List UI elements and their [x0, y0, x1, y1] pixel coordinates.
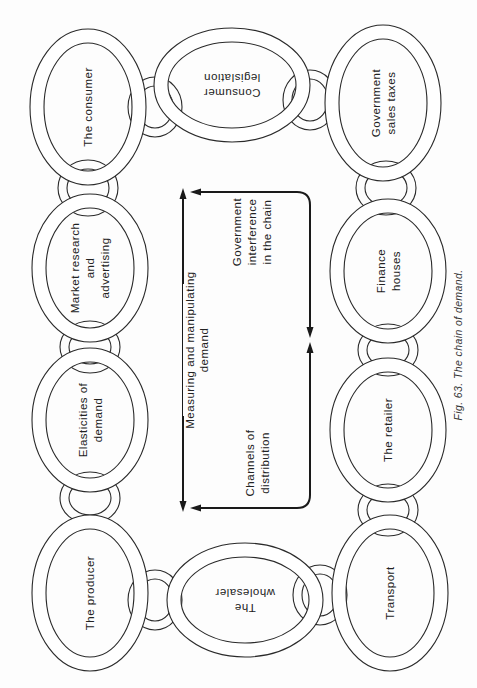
- ring-label-line: Transport: [384, 566, 396, 620]
- ring-label-line: Consumer: [203, 87, 260, 99]
- ring-label: Market researchandadvertising: [69, 223, 111, 314]
- ring-label-line: The consumer: [82, 67, 94, 147]
- ring-elasticities: Elasticities ofdemand: [32, 348, 148, 492]
- ring-label-line: The producer: [84, 556, 96, 630]
- ring-label-line: The: [234, 602, 255, 614]
- ring-label: Consumerlegislation: [203, 72, 260, 99]
- ring-label-line: Finance: [375, 249, 387, 293]
- ring-label: Governmentsales taxes: [370, 69, 397, 138]
- ring-label-line: and: [84, 258, 96, 279]
- ring-transport: Transport: [332, 515, 448, 671]
- channels-of-distribution-label: Channels of distribution: [244, 429, 271, 496]
- arrow-left-icon: [190, 505, 201, 512]
- svg-text:distribution: distribution: [259, 432, 271, 494]
- figure-caption: Fig. 63. The chain of demand.: [452, 269, 464, 420]
- svg-text:Government: Government: [231, 198, 243, 267]
- ring-label-line: The retailer: [382, 398, 394, 462]
- ring-label-line: advertising: [99, 237, 111, 298]
- ring-label-line: Elasticities of: [77, 382, 89, 457]
- svg-text:interference: interference: [246, 199, 258, 266]
- svg-text:in the chain: in the chain: [261, 200, 273, 265]
- measuring-label-line-1: Measuring and manipulating: [184, 271, 196, 428]
- ring-label: The consumer: [82, 67, 94, 147]
- ring-label: Transport: [384, 566, 396, 620]
- ring-government-sales-taxes: Governmentsales taxes: [325, 25, 441, 181]
- ring-finance-houses: Financehouses: [330, 199, 446, 343]
- ring-label-line: Government: [370, 69, 382, 138]
- ring-label-line: Market research: [69, 223, 81, 314]
- ring-label: Thewholesaler: [215, 587, 276, 614]
- arrow-down-icon: [180, 501, 187, 512]
- ring-label-line: legislation: [204, 72, 261, 84]
- ring-label-line: wholesaler: [215, 587, 276, 599]
- ring-label: Elasticities ofdemand: [77, 382, 104, 457]
- arrow-up-icon: [180, 188, 187, 199]
- chain-of-demand-diagram: The consumerMarket researchandadvertisin…: [0, 0, 477, 688]
- ring-label: Financehouses: [375, 249, 402, 293]
- ring-retailer: The retailer: [330, 358, 446, 502]
- arrow-left-icon: [190, 189, 201, 196]
- government-interference-label: Government interference in the chain: [231, 198, 273, 267]
- arrow-up-icon: [307, 342, 314, 353]
- ring-producer: The producer: [32, 515, 148, 671]
- measuring-label: Measuring and manipulating demand: [183, 271, 210, 428]
- ring-label: The producer: [84, 556, 96, 630]
- measuring-label-line-2: demand: [198, 328, 210, 373]
- ring-label: The retailer: [382, 398, 394, 462]
- ring-label-line: demand: [92, 398, 104, 443]
- ring-label-line: houses: [390, 251, 402, 291]
- svg-text:Fig. 63. The chain of demand.: Fig. 63. The chain of demand.: [452, 269, 464, 420]
- ring-consumer: The consumer: [30, 29, 146, 185]
- ring-wholesaler: Thewholesaler: [167, 543, 323, 657]
- arrow-down-icon: [307, 327, 314, 338]
- svg-text:Channels of: Channels of: [244, 429, 256, 496]
- chain-rings: The consumerMarket researchandadvertisin…: [30, 25, 448, 671]
- ring-label-line: sales taxes: [385, 71, 397, 134]
